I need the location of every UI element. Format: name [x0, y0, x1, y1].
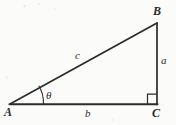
vertex-label-b: B: [153, 5, 161, 17]
side-label-a: a: [161, 55, 167, 66]
side-label-b: b: [85, 108, 91, 119]
vertex-label-a: A: [4, 106, 12, 118]
side-hypotenuse-line: [10, 23, 157, 104]
angle-label-theta: θ: [46, 90, 51, 101]
triangle-figure: A B C a b c θ: [0, 0, 176, 125]
side-label-c: c: [75, 50, 80, 61]
vertex-label-c: C: [152, 107, 160, 119]
right-angle-marker-icon: [148, 94, 158, 104]
